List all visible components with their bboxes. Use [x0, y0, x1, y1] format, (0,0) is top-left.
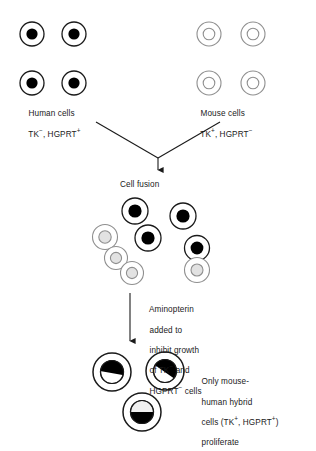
human-genotype-prefix: TK: [28, 130, 39, 139]
human-cell: [62, 22, 86, 46]
human-genotype-mid: , HGPRT: [43, 130, 77, 139]
hybrid-line3-mid: , HGPRT: [238, 418, 272, 427]
hybrid-line1: Only mouse-: [202, 377, 250, 386]
mouse-cells-group: [197, 22, 265, 95]
mixture-human-cell: [135, 225, 161, 251]
hybrid-line4: proliferate: [202, 438, 240, 447]
human-cells-label: Human cells TK−, HGPRT+: [19, 99, 80, 150]
aminopterin-line3: inhibit growth: [150, 346, 200, 355]
mouse-cell: [241, 71, 265, 95]
hybrid-line3-prefix: cells (TK: [202, 418, 235, 427]
human-cell: [62, 71, 86, 95]
mouse-cell: [197, 71, 221, 95]
hybrid-result-label: Only mouse- human hybrid cells (TK+, HGP…: [192, 367, 279, 451]
human-cells-group: [20, 22, 86, 95]
mixture-fused-doublet: [185, 236, 210, 283]
human-cell: [20, 22, 44, 46]
mixture-human-cell: [122, 198, 148, 224]
aminopterin-line4-prefix: of TK: [150, 366, 170, 375]
human-hgprt-sign: +: [77, 127, 81, 134]
mouse-cells-label: Mouse cells TK+, HGPRT−: [191, 99, 252, 150]
mixture-mouse-cell: [93, 225, 118, 250]
aminopterin-line2: added to: [150, 326, 183, 335]
hybrid-line2: human hybrid: [202, 398, 253, 407]
mouse-genotype-mid: , HGPRT: [215, 130, 249, 139]
mouse-genotype-prefix: TK: [200, 130, 211, 139]
human-cell: [20, 71, 44, 95]
mouse-cells-line1: Mouse cells: [201, 109, 245, 118]
mouse-hgprt-sign: −: [249, 127, 253, 134]
mixture-human-cell: [170, 203, 196, 229]
mouse-cell: [241, 22, 265, 46]
mixture-mouse-doublet: [105, 247, 144, 285]
hybrid-line3-suffix: ): [276, 418, 279, 427]
fusion-mixture-group: [93, 198, 210, 285]
hybrid-cell: [93, 346, 134, 391]
mouse-cell: [197, 22, 221, 46]
cell-fusion-label: Cell fusion: [120, 180, 159, 190]
human-cells-line1: Human cells: [29, 109, 75, 118]
aminopterin-line5-prefix: HGPRT: [150, 387, 179, 396]
aminopterin-line4-suffix: and: [173, 366, 189, 375]
aminopterin-line1: Aminopterin: [149, 305, 194, 314]
